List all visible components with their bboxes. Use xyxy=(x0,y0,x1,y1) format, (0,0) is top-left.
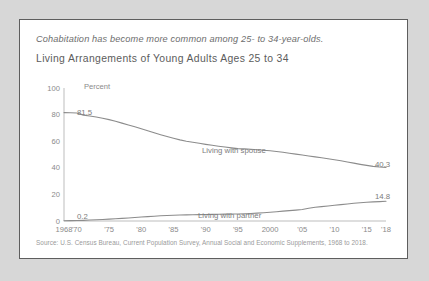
x-tick-label: '80 xyxy=(126,225,156,234)
y-tick-label: 20 xyxy=(38,190,60,199)
value-label-spouse-start: 81.5 xyxy=(77,108,92,117)
value-label-spouse-end: 40.3 xyxy=(375,160,390,169)
x-tick-label: '10 xyxy=(319,225,349,234)
chart-headline: Cohabitation has become more common amon… xyxy=(36,34,323,44)
y-tick-label: 60 xyxy=(38,137,60,146)
x-tick-label: 2000 xyxy=(255,225,285,234)
series-label-living-with-spouse: Living with spouse xyxy=(202,146,266,155)
x-tick-label: '70 xyxy=(62,225,92,234)
value-label-partner-start: 0.2 xyxy=(77,212,88,221)
x-tick-label: '05 xyxy=(287,225,317,234)
x-tick-label: '75 xyxy=(94,225,124,234)
x-tick-label: '95 xyxy=(223,225,253,234)
x-tick-label: '85 xyxy=(158,225,188,234)
y-tick-label: 100 xyxy=(38,84,60,93)
chart-title: Living Arrangements of Young Adults Ages… xyxy=(36,53,289,64)
series-line-living-with-spouse xyxy=(64,113,386,168)
x-tick-label: '18 xyxy=(371,225,401,234)
value-label-partner-end: 14.8 xyxy=(375,192,390,201)
y-tick-label: 80 xyxy=(38,110,60,119)
chart-card: Cohabitation has become more common amon… xyxy=(19,19,408,259)
x-tick-label: '90 xyxy=(191,225,221,234)
series-label-living-with-partner: Living with partner xyxy=(198,211,261,220)
y-tick-label: 40 xyxy=(38,163,60,172)
source-note: Source: U.S. Census Bureau, Current Popu… xyxy=(36,239,368,246)
